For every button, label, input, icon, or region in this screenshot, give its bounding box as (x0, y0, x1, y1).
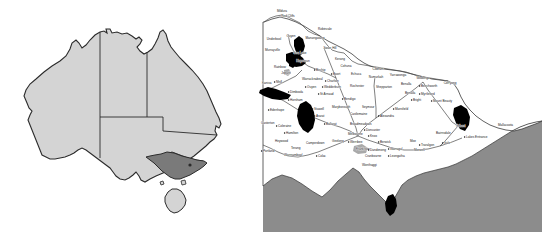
town-marker: Melbourne (348, 132, 363, 136)
town-marker: Alexandra (378, 114, 394, 118)
town-label: Hamilton (286, 131, 298, 135)
town-label: Werribee (350, 140, 363, 144)
town-label: Melbourne (348, 132, 363, 136)
victoria-detail-map: MilduraRed CliffsRobinvaleOuyenManangata… (258, 0, 547, 232)
town-label: Mansfield (395, 107, 409, 111)
town-marker: Ouyen (305, 85, 317, 89)
town-label: Boort (333, 72, 341, 76)
town-marker: Benalla (405, 91, 416, 95)
town-marker: Coleraine (276, 124, 292, 128)
town-label: Echuca (351, 72, 362, 76)
tasmania-landmass (165, 189, 186, 213)
town-marker: Sale (442, 141, 451, 145)
town-label: Morwell (414, 148, 425, 152)
coastal-marker (188, 163, 191, 166)
town-label: Seymour (362, 105, 374, 109)
town-marker: Orbost (456, 124, 465, 128)
town-label: Mount Beauty (433, 99, 453, 103)
town-label: Cranbourne (365, 154, 382, 158)
town-label: Birchip (316, 68, 326, 72)
town-marker: Mansfield (393, 107, 409, 111)
town-marker: Kaniva (262, 81, 272, 85)
town-marker: Rainbow (274, 65, 287, 69)
town-marker: Bright (411, 98, 421, 102)
two-panel-map-figure: MilduraRed CliffsRobinvaleOuyenManangata… (0, 0, 547, 232)
town-label: Sea Lake (293, 51, 306, 55)
town-marker: Morwell (414, 148, 425, 152)
town-marker: Numurkah (369, 75, 384, 79)
tasmania-islet-west (160, 181, 164, 185)
town-label: Robinvale (318, 27, 332, 31)
town-label: Cohuna (341, 64, 352, 68)
town-marker: Underbool (267, 37, 282, 41)
town-marker: Shepparton (376, 85, 392, 89)
town-marker: Edenhope (268, 108, 285, 112)
town-label: Cobram (372, 67, 383, 71)
town-label: Murrayville (265, 48, 280, 52)
town-marker: Wonthaggi (362, 163, 377, 167)
tasmania-islet-east (181, 180, 186, 185)
town-label: Underbool (267, 37, 282, 41)
town-label: Camperdown (306, 141, 325, 145)
town-label: Yarrawonga (390, 73, 407, 77)
town-marker: Frankston (356, 147, 370, 151)
town-marker: Corryong (444, 81, 457, 85)
town-marker: Seymour (362, 105, 374, 109)
town-label: Numurkah (369, 75, 384, 79)
town-marker: Terang (291, 146, 301, 150)
town-marker: Wedderburn (322, 85, 341, 89)
town-marker: Nhill (274, 80, 282, 84)
town-marker: Knox (368, 134, 378, 138)
town-label: Ararat (316, 114, 325, 118)
town-label: Wodonga (416, 76, 429, 80)
town-label: Charlton (327, 79, 339, 83)
town-marker: Berwick (378, 140, 391, 144)
town-marker: Werribee (348, 140, 363, 144)
town-label: Doncaster (366, 128, 380, 132)
town-label: Colac (318, 154, 326, 158)
town-marker: Swan Hill (324, 46, 337, 50)
town-label: Beechworth (421, 84, 438, 88)
town-marker: Mount Beauty (431, 99, 453, 103)
town-label: Terang (291, 146, 301, 150)
town-label: Rochester (350, 84, 364, 88)
town-marker: Boort (331, 72, 341, 76)
town-marker: Hamilton (284, 131, 299, 135)
town-label: Swan Hill (324, 46, 337, 50)
town-label: Moe (410, 139, 416, 143)
town-marker: Stawell (312, 107, 324, 111)
town-marker: Traralgon (419, 143, 435, 147)
town-marker: Bendigo (342, 97, 356, 101)
town-marker: Ouyen (286, 34, 295, 38)
town-marker: Murrayville (265, 48, 280, 52)
town-label: Benalla (401, 82, 412, 86)
town-label: Ouyen (286, 34, 295, 38)
town-label: Maryborough (332, 105, 351, 109)
town-label: Warracknabeal (302, 77, 323, 81)
town-marker: Echuca (351, 72, 362, 76)
town-marker: Colac (316, 154, 327, 158)
town-label: Lakes Entrance (466, 135, 488, 139)
town-marker: Mildura (277, 9, 287, 13)
town-label: Orbost (456, 124, 465, 128)
town-label: Warragul (390, 147, 403, 151)
town-label: Ballarat (326, 122, 337, 126)
town-marker: Cohuna (341, 64, 352, 68)
town-label: Alexandra (380, 114, 394, 118)
town-marker: Warracknabeal (302, 77, 323, 81)
town-label: Stawell (314, 107, 324, 111)
town-label: Jeparit (281, 71, 290, 75)
town-marker: Geelong (332, 139, 344, 143)
australia-locator-map (0, 0, 258, 232)
town-marker: Mallacoota (498, 123, 513, 127)
town-label: Edenhope (270, 108, 284, 112)
town-label: Hopetoun (296, 59, 310, 63)
town-marker: Jeparit (281, 71, 290, 75)
town-label: St Arnaud (320, 92, 334, 96)
town-marker: Warragul (388, 147, 403, 151)
town-label: Manangatang (306, 36, 325, 40)
town-label: Myrtleford (421, 92, 435, 96)
town-marker: Camperdown (306, 141, 325, 145)
town-label: Horsham (290, 98, 303, 102)
town-label: Nhill (276, 80, 282, 84)
